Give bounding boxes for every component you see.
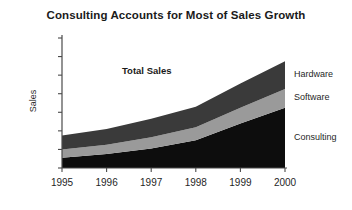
- x-axis-tick-label-1998: 1998: [185, 177, 207, 188]
- x-axis-tick-label-1996: 1996: [95, 177, 117, 188]
- x-axis-tick-label-1995: 1995: [51, 177, 73, 188]
- x-axis-tick-label-2000: 2000: [274, 177, 296, 188]
- annotation-total-sales: Total Sales: [122, 65, 171, 76]
- x-axis-tick-label-1997: 1997: [140, 177, 162, 188]
- series-label-consulting: Consulting: [294, 132, 337, 142]
- y-axis-label: Sales: [28, 81, 38, 121]
- x-axis-tick-label-1999: 1999: [229, 177, 251, 188]
- series-label-hardware: Hardware: [294, 69, 333, 79]
- x-axis-ticks: [62, 168, 285, 172]
- stacked-area-series: [62, 61, 285, 168]
- chart-figure: Consulting Accounts for Most of Sales Gr…: [0, 0, 352, 210]
- series-label-software: Software: [294, 92, 330, 102]
